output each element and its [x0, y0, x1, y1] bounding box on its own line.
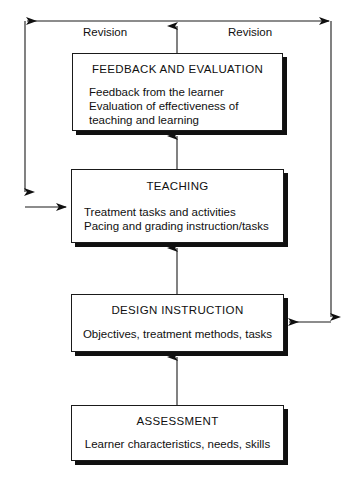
node-assessment-body: Learner characteristics, needs, skills — [80, 437, 275, 451]
node-teaching-body: Treatment tasks and activities Pacing an… — [80, 205, 275, 233]
node-teaching: TEACHING Treatment tasks and activities … — [71, 169, 284, 243]
node-teaching-title: TEACHING — [80, 180, 275, 192]
node-feedback-and-evaluation-body: Feedback from the learner Evaluation of … — [83, 85, 272, 127]
node-design-instruction-title: DESIGN INSTRUCTION — [80, 304, 275, 316]
revision-label-left: Revision — [83, 26, 127, 38]
flowchart-diagram: Revision Revision FEEDBACK AND EVALUATIO… — [0, 0, 353, 484]
node-feedback-and-evaluation-title: FEEDBACK AND EVALUATION — [83, 63, 272, 75]
node-assessment-title: ASSESSMENT — [80, 415, 275, 427]
revision-label-right: Revision — [228, 26, 272, 38]
node-assessment: ASSESSMENT Learner characteristics, need… — [71, 405, 284, 461]
node-feedback-and-evaluation: FEEDBACK AND EVALUATION Feedback from th… — [72, 53, 283, 131]
node-design-instruction: DESIGN INSTRUCTION Objectives, treatment… — [71, 294, 284, 352]
node-design-instruction-body: Objectives, treatment methods, tasks — [80, 327, 275, 341]
